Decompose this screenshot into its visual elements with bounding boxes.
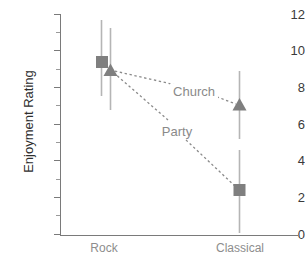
y-tick-mark-6: [54, 124, 60, 125]
connector-party-right: [186, 140, 237, 188]
connector-party-left: [106, 66, 168, 120]
y-minor-tick-1: [56, 215, 60, 216]
y-tick-mark-8: [54, 87, 60, 88]
y-tick-label-8: 8: [259, 81, 305, 94]
connector-church-left: [110, 70, 176, 85]
y-tick-label-6: 6: [259, 118, 305, 131]
enjoyment-rating-chart: Enjoyment Rating 0 2 4 6 8 10 12 Rock Cl…: [0, 0, 305, 264]
y-minor-tick-9: [56, 69, 60, 70]
y-tick-mark-0: [54, 234, 60, 235]
y-tick-label-2: 2: [259, 191, 305, 204]
y-tick-label-0: 0: [259, 228, 305, 241]
y-axis-title: Enjoyment Rating: [21, 47, 36, 197]
series-label-party: Party: [159, 124, 195, 139]
y-minor-tick-5: [56, 142, 60, 143]
marker-party-classical: [234, 184, 246, 196]
y-minor-tick-7: [56, 105, 60, 106]
y-tick-label-10: 10: [259, 44, 305, 57]
y-minor-tick-11: [56, 32, 60, 33]
y-axis-line: [60, 14, 61, 235]
x-tick-label-classical: Classical: [216, 241, 264, 255]
y-tick-label-12: 12: [259, 8, 305, 21]
x-tick-label-rock: Rock: [90, 241, 117, 255]
marker-church-classical: [233, 98, 247, 111]
series-label-church: Church: [170, 84, 218, 99]
y-tick-mark-4: [54, 160, 60, 161]
marker-church-rock: [104, 64, 118, 77]
marker-party-rock: [96, 56, 108, 68]
y-tick-mark-2: [54, 197, 60, 198]
y-minor-tick-3: [56, 179, 60, 180]
y-tick-mark-10: [54, 50, 60, 51]
y-tick-mark-12: [54, 14, 60, 15]
y-tick-label-4: 4: [259, 154, 305, 167]
plot-area: [0, 0, 305, 264]
